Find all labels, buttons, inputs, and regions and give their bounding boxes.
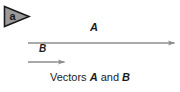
vector-figure: a A B Vectors A and B	[0, 0, 180, 92]
vector-label-b: B	[39, 43, 46, 54]
figure-caption: Vectors A and B	[0, 71, 180, 83]
caption-conjunction: and	[98, 71, 122, 83]
caption-prefix: Vectors	[50, 71, 90, 83]
vector-label-a: A	[90, 21, 98, 33]
caption-symbol-b: B	[122, 71, 130, 83]
caption-symbol-a: A	[90, 71, 98, 83]
